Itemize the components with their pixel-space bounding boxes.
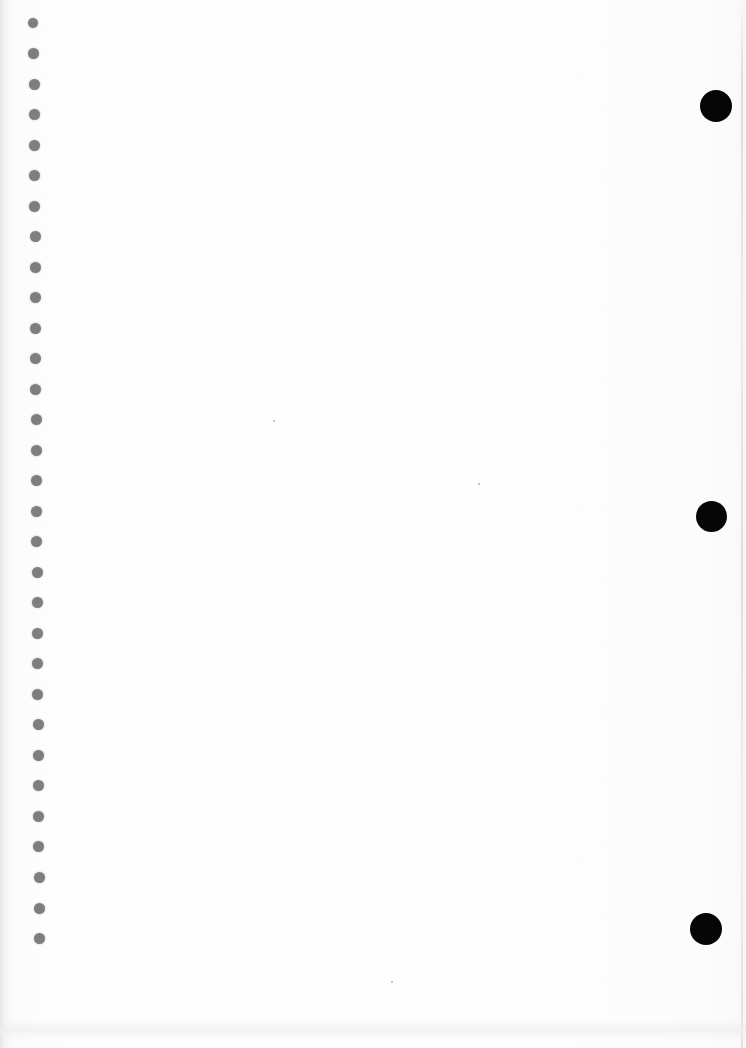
binding-hole: [31, 414, 42, 425]
binding-hole: [34, 933, 45, 944]
binding-hole: [30, 231, 41, 242]
binding-hole: [31, 445, 42, 456]
binding-hole: [33, 811, 44, 822]
paper-background: [0, 0, 746, 1048]
binding-hole: [31, 506, 42, 517]
binding-hole: [32, 597, 43, 608]
binding-hole: [31, 475, 42, 486]
binding-hole: [29, 140, 40, 151]
binding-hole: [30, 323, 41, 334]
binding-hole: [30, 384, 41, 395]
binding-hole: [33, 719, 44, 730]
binding-hole: [30, 353, 41, 364]
binding-hole: [29, 201, 40, 212]
mark-top: [700, 90, 732, 122]
binding-hole: [32, 628, 43, 639]
binding-hole: [34, 903, 45, 914]
binding-hole: [29, 109, 40, 120]
mark-middle: [696, 501, 727, 532]
binding-hole: [30, 262, 41, 273]
binding-hole: [32, 567, 43, 578]
binding-hole: [29, 170, 40, 181]
scan-speck: [273, 420, 275, 422]
mark-bottom: [690, 913, 722, 945]
binding-hole: [33, 841, 44, 852]
scan-speck: [391, 981, 393, 983]
binding-hole: [32, 689, 43, 700]
binding-hole: [28, 48, 39, 59]
binding-hole: [32, 658, 43, 669]
binding-hole: [31, 536, 42, 547]
binding-hole: [28, 18, 38, 28]
binding-hole: [29, 79, 40, 90]
scan-speck: [478, 483, 480, 485]
scanned-page: [0, 0, 746, 1048]
binding-hole: [30, 292, 41, 303]
binding-hole: [34, 872, 45, 883]
binding-hole: [33, 780, 44, 791]
binding-hole: [33, 750, 44, 761]
